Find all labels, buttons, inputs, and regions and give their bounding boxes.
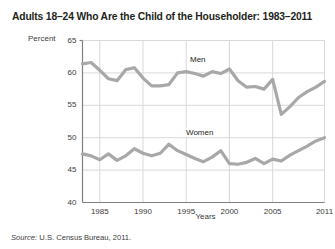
source-text: U.S. Census Bureau, 2011. [39,233,131,242]
x-axis-label-text: Years [195,212,215,221]
series-line-women [83,138,325,165]
y-axis-tick-label: 45 [59,165,77,174]
y-axis-tick-label: 65 [59,36,77,45]
series-label-men: Men [189,55,207,64]
y-axis-tick-label: 50 [59,133,77,142]
source-label: Source: [11,233,37,242]
chart-figure: Adults 18–24 Who Are the Child of the Ho… [0,0,335,249]
y-axis-tick-label: 55 [59,100,77,109]
y-axis-tick-label: 60 [59,68,77,77]
x-axis-label: Years [0,212,335,221]
y-axis-tick-label: 40 [59,198,77,207]
source-note: Source: U.S. Census Bureau, 2011. [11,233,131,242]
series-line-men [83,63,325,115]
series-label-women: Women [185,128,214,137]
